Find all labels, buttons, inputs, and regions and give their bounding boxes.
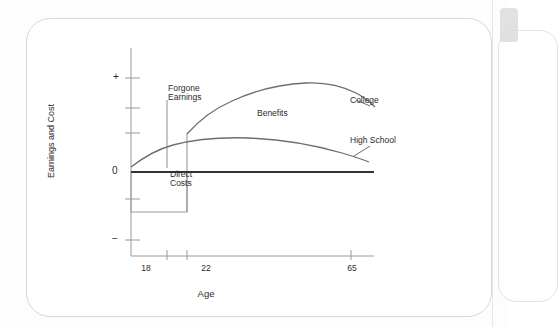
x-tick-marks — [167, 250, 351, 260]
y-tick-zero: 0 — [112, 166, 118, 177]
y-tick-plus: + — [113, 72, 119, 83]
y-tick-minus: − — [112, 234, 118, 245]
y-axis-label: Earnings and Cost — [46, 86, 56, 196]
y-tick-marks — [125, 78, 140, 240]
page-tab-marker — [500, 8, 518, 42]
earnings-cost-chart: Earnings and Cost + 0 − 18 22 65 Age For… — [26, 18, 492, 317]
adjacent-page-card — [498, 30, 558, 302]
series-label-high-school: High School — [350, 136, 396, 145]
page-seam — [492, 0, 493, 327]
series-label-college: College — [350, 96, 379, 105]
x-axis-label: Age — [26, 288, 386, 299]
high-school-leader — [354, 146, 370, 156]
annotation-direct-line2: Costs — [170, 179, 192, 188]
x-tick-65: 65 — [342, 264, 362, 273]
x-tick-18: 18 — [136, 264, 156, 273]
annotation-forgone-earnings: Forgone Earnings — [168, 84, 202, 102]
x-tick-22: 22 — [196, 264, 216, 273]
annotation-direct-costs: Direct Costs — [170, 170, 192, 188]
annotation-forgone-line2: Earnings — [168, 93, 202, 102]
annotation-benefits: Benefits — [257, 109, 288, 118]
chart-svg — [26, 18, 492, 317]
